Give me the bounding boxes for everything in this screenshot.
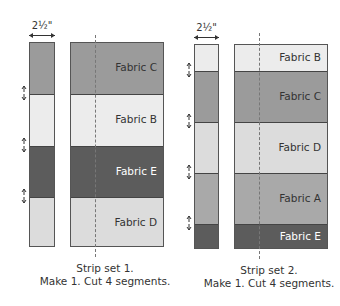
band-fabric-a: Fabric A xyxy=(235,173,327,224)
band-fabric-c: Fabric C xyxy=(71,43,163,94)
dimension-label: 2½" xyxy=(29,20,55,31)
band-fabric-e: Fabric E xyxy=(235,224,327,248)
band-fabric-c: Fabric C xyxy=(235,71,327,122)
band-fabric-d: Fabric D xyxy=(71,197,163,246)
caption: Strip set 2. Make 1. Cut 4 segments. xyxy=(196,264,340,290)
caption-line-1: Strip set 2. xyxy=(196,264,340,277)
segment-band-fabric-c xyxy=(30,43,54,94)
band-fabric-b: Fabric B xyxy=(235,45,327,71)
fabric-label: Fabric B xyxy=(279,51,321,63)
pressing-arrow-icon xyxy=(21,138,27,152)
dimension-arrowheads-icon xyxy=(193,34,220,41)
pressing-arrow-icon xyxy=(186,216,192,230)
caption-line-2: Make 1. Cut 4 segments. xyxy=(196,277,340,290)
segment-band-fabric-d xyxy=(30,197,54,246)
pressing-arrow-icon xyxy=(186,63,192,77)
caption: Strip set 1. Make 1. Cut 4 segments. xyxy=(30,262,180,288)
segment-strip-2 xyxy=(194,44,219,249)
segment-band-fabric-c xyxy=(195,71,218,122)
fabric-label: Fabric D xyxy=(278,141,321,153)
pressing-arrow-icon xyxy=(186,165,192,179)
dimension-label: 2½" xyxy=(194,22,219,33)
cut-line xyxy=(95,35,96,257)
pressing-arrow-icon xyxy=(21,86,27,100)
fabric-label: Fabric A xyxy=(279,192,321,204)
strip-set-2-panel: Fabric B Fabric C Fabric D Fabric A Fabr… xyxy=(234,44,328,249)
pressing-arrow-icon xyxy=(21,189,27,203)
fabric-label: Fabric B xyxy=(115,113,157,125)
segment-strip-1 xyxy=(29,42,55,247)
fabric-label: Fabric E xyxy=(116,165,157,177)
fabric-label: Fabric D xyxy=(114,216,157,228)
segment-band-fabric-a xyxy=(195,173,218,224)
dimension-arrowheads-icon xyxy=(28,32,56,39)
segment-band-fabric-b xyxy=(30,94,54,146)
segment-band-fabric-e xyxy=(195,224,218,248)
strip-set-1-panel: Fabric C Fabric B Fabric E Fabric D xyxy=(70,42,164,247)
band-fabric-e: Fabric E xyxy=(71,146,163,197)
band-fabric-d: Fabric D xyxy=(235,122,327,173)
caption-line-1: Strip set 1. xyxy=(30,262,180,275)
segment-band-fabric-d xyxy=(195,122,218,173)
fabric-label: Fabric C xyxy=(279,90,321,102)
segment-band-fabric-e xyxy=(30,146,54,197)
fabric-label: Fabric E xyxy=(280,230,321,242)
caption-line-2: Make 1. Cut 4 segments. xyxy=(30,275,180,288)
pressing-arrow-icon xyxy=(186,114,192,128)
band-fabric-b: Fabric B xyxy=(71,94,163,146)
fabric-label: Fabric C xyxy=(115,61,157,73)
segment-band-fabric-b xyxy=(195,45,218,71)
cut-line xyxy=(259,33,260,259)
